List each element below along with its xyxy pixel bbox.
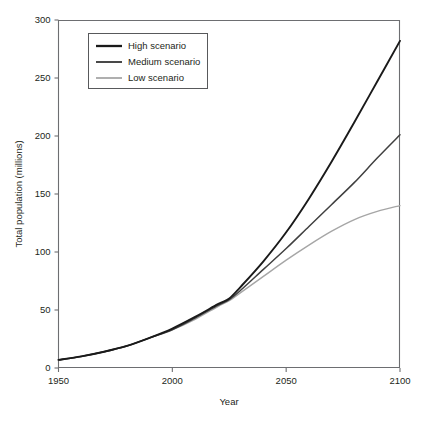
x-axis-title: Year	[219, 396, 238, 407]
chart-legend[interactable]: High scenarioMedium scenarioLow scenario	[89, 34, 208, 89]
legend-label-high-scenario[interactable]: High scenario	[128, 40, 186, 51]
legend-label-medium-scenario[interactable]: Medium scenario	[128, 56, 200, 67]
y-tick-label: 0	[45, 362, 50, 373]
x-tick-label: 1950	[48, 375, 69, 386]
chart-background	[0, 0, 424, 428]
x-tick-label: 2000	[162, 375, 183, 386]
population-projection-figure: 050100150200250300 1950200020502100 Year…	[0, 0, 424, 428]
line-chart: 050100150200250300 1950200020502100 Year…	[0, 0, 424, 428]
y-tick-label: 150	[35, 188, 51, 199]
y-tick-label: 50	[40, 304, 51, 315]
y-axis-title: Total population (millions)	[13, 140, 24, 247]
y-tick-label: 250	[35, 72, 51, 83]
y-tick-label: 200	[35, 130, 51, 141]
x-tick-label: 2100	[389, 375, 410, 386]
legend-label-low-scenario[interactable]: Low scenario	[128, 72, 184, 83]
x-tick-label: 2050	[276, 375, 297, 386]
y-tick-label: 100	[35, 246, 51, 257]
y-tick-label: 300	[35, 14, 51, 25]
